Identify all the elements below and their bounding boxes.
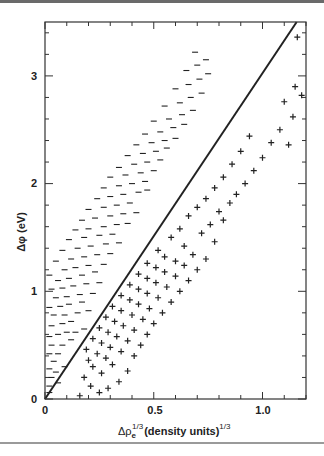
plus-marker bbox=[260, 155, 266, 161]
x-tick-label-1.0: 1.0 bbox=[255, 404, 270, 416]
plus-marker bbox=[105, 329, 111, 335]
plus-marker bbox=[81, 374, 87, 380]
plus-marker bbox=[190, 252, 196, 258]
plus-marker bbox=[251, 168, 257, 174]
plus-marker bbox=[90, 336, 96, 342]
plus-marker bbox=[127, 282, 133, 288]
plus-marker bbox=[136, 286, 142, 292]
plus-marker bbox=[199, 230, 205, 236]
fit-line bbox=[45, 22, 297, 399]
plus-marker bbox=[116, 379, 122, 385]
plus-marker bbox=[88, 383, 94, 389]
x-axis-label-subscript: e bbox=[132, 431, 137, 440]
plus-marker bbox=[105, 385, 111, 391]
plus-marker bbox=[125, 338, 131, 344]
plus-marker bbox=[186, 213, 192, 219]
plus-marker bbox=[155, 247, 161, 253]
plus-marker bbox=[140, 316, 146, 322]
plus-marker bbox=[229, 161, 235, 167]
plus-marker bbox=[181, 243, 187, 249]
axis-ticks bbox=[45, 22, 306, 399]
plus-marker bbox=[207, 222, 213, 228]
plus-marker bbox=[181, 262, 187, 268]
plus-marker bbox=[159, 310, 165, 316]
plus-marker bbox=[99, 340, 105, 346]
x-axis-label-symbol: Δρ bbox=[118, 425, 132, 437]
plus-marker bbox=[220, 217, 226, 223]
plus-marker bbox=[168, 234, 174, 240]
plus-marker bbox=[96, 325, 102, 331]
plus-marker bbox=[83, 346, 89, 352]
scatter-chart: 0 0.5 1.0 0 1 2 3 Δρe1/3(density units)1… bbox=[0, 0, 324, 456]
y-tick-label-3: 3 bbox=[31, 70, 37, 82]
y-axis-label: Δφ (eV) bbox=[15, 212, 27, 252]
plus-marker bbox=[216, 209, 222, 215]
plus-marker bbox=[162, 269, 168, 275]
y-tick-label-0: 0 bbox=[31, 393, 37, 405]
plus-marker bbox=[268, 140, 274, 146]
plus-marker bbox=[94, 351, 100, 357]
plus-marker bbox=[194, 267, 200, 273]
x-axis-label-superscript: 1/3 bbox=[132, 422, 144, 431]
plus-marker bbox=[233, 191, 239, 197]
plus-marker bbox=[203, 256, 209, 262]
plus-marker bbox=[151, 321, 157, 327]
plus-marker bbox=[246, 133, 252, 139]
plus-marker bbox=[227, 200, 233, 206]
plus-marker bbox=[155, 295, 161, 301]
plot-frame bbox=[45, 22, 306, 399]
plus-marker bbox=[238, 148, 244, 154]
plus-marker bbox=[146, 306, 152, 312]
plus-marker bbox=[129, 312, 135, 318]
plus-marker bbox=[164, 284, 170, 290]
plus-marker bbox=[96, 390, 102, 396]
plus-marker bbox=[186, 278, 192, 284]
plus-marker bbox=[203, 196, 209, 202]
plus-marker bbox=[127, 297, 133, 303]
plus-marker bbox=[136, 301, 142, 307]
plus-marker bbox=[153, 280, 159, 286]
plus-marker bbox=[120, 323, 126, 329]
plus-marker bbox=[168, 299, 174, 305]
plus-marker bbox=[292, 84, 298, 90]
plus-marker bbox=[153, 265, 159, 271]
plus-marker bbox=[103, 314, 109, 320]
plus-marker bbox=[138, 342, 144, 348]
data-markers bbox=[46, 34, 304, 399]
plus-marker bbox=[118, 308, 124, 314]
plus-marker bbox=[162, 254, 168, 260]
plus-marker bbox=[144, 290, 150, 296]
x-tick-label-0.5: 0.5 bbox=[147, 404, 162, 416]
plus-marker bbox=[144, 331, 150, 337]
plus-marker bbox=[173, 258, 179, 264]
plus-marker bbox=[144, 260, 150, 266]
plus-marker bbox=[107, 344, 113, 350]
plus-marker bbox=[114, 334, 120, 340]
plus-marker bbox=[131, 353, 137, 359]
x-tick-label-0: 0 bbox=[42, 404, 48, 416]
plus-marker bbox=[112, 318, 118, 324]
plus-marker bbox=[212, 239, 218, 245]
plus-marker bbox=[277, 127, 283, 133]
plus-marker bbox=[109, 303, 115, 309]
plus-marker bbox=[177, 226, 183, 232]
plus-marker bbox=[144, 275, 150, 281]
plus-marker bbox=[281, 99, 287, 105]
plus-marker bbox=[286, 142, 292, 148]
plus-marker bbox=[125, 368, 131, 374]
plus-marker bbox=[118, 293, 124, 299]
plus-marker bbox=[90, 364, 96, 370]
x-axis-label-units: (density units) bbox=[144, 425, 220, 437]
plus-marker bbox=[242, 181, 248, 187]
x-axis-label-superscript-2: 1/3 bbox=[219, 422, 231, 431]
y-tick-label-1: 1 bbox=[31, 285, 37, 297]
plus-marker bbox=[173, 273, 179, 279]
plus-marker bbox=[86, 357, 92, 363]
plus-marker bbox=[220, 174, 226, 180]
plus-marker bbox=[290, 114, 296, 120]
x-axis-label: Δρe1/3(density units)1/3 bbox=[118, 422, 231, 440]
plus-marker bbox=[109, 362, 115, 368]
plus-marker bbox=[136, 271, 142, 277]
plus-marker bbox=[118, 349, 124, 355]
y-tick-label-2: 2 bbox=[31, 177, 37, 189]
